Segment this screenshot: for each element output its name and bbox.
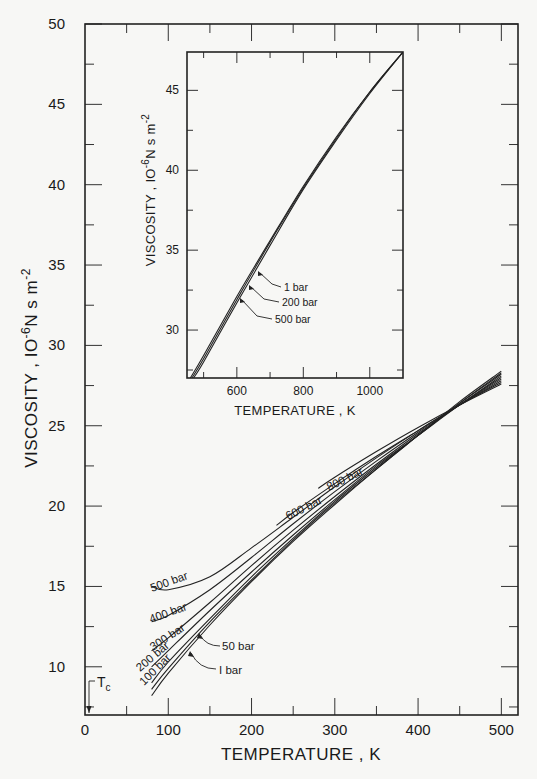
inset-y-title-mid: N s m <box>143 123 158 158</box>
pointer-1bar <box>191 653 216 669</box>
y-tick-label: 50 <box>48 15 65 32</box>
curve-200bar <box>152 376 502 667</box>
y-tick-label: 45 <box>48 95 65 112</box>
curve-50bar <box>152 373 502 690</box>
main-curve-labels: 500 bar 400 bar 300 bar 200 bar 100 bar … <box>134 465 366 688</box>
y-tick-label: 35 <box>48 256 65 273</box>
y-tick-label: 25 <box>48 417 65 434</box>
y-tick-label: 45 <box>166 83 180 97</box>
main-y-title-exp1: -6 <box>19 327 33 339</box>
x-tick-label: 500 <box>489 721 514 738</box>
inset-curve-label-500bar: 500 bar <box>275 313 311 325</box>
x-tick-label: 1000 <box>356 384 383 398</box>
pointer-1bar-arrow-icon <box>188 651 194 657</box>
inset-y-title-main: VISCOSITY , IO <box>143 168 158 266</box>
inset-y-title-exp2: -2 <box>140 114 151 124</box>
inset-x-axis-title: TEMPERATURE , K <box>234 403 355 418</box>
inset-curve-label-1bar: 1 bar <box>284 281 308 293</box>
y-tick-label: 15 <box>48 577 65 594</box>
main-y-title-exp2: -2 <box>19 268 33 280</box>
main-y-axis-title: VISCOSITY , IO-6N s m-2 <box>19 268 41 468</box>
tc-label: Tc <box>97 674 111 693</box>
inset-y-title-exp1: -6 <box>140 159 151 169</box>
x-tick-label: 200 <box>239 721 264 738</box>
curve-100bar <box>152 374 502 683</box>
y-tick-label: 40 <box>48 176 65 193</box>
main-x-axis-title: TEMPERATURE , K <box>221 745 381 764</box>
tc-marker: Tc <box>87 674 111 713</box>
main-y-title-mid: N s m <box>22 280 41 327</box>
y-tick-label: 35 <box>166 243 180 257</box>
x-tick-label: 0 <box>81 721 89 738</box>
x-tick-label: 400 <box>406 721 431 738</box>
y-tick-label: 40 <box>166 163 180 177</box>
main-curves <box>152 371 502 696</box>
pointer-50bar <box>200 635 220 646</box>
curve-label-500bar: 500 bar <box>149 569 190 594</box>
y-tick-label: 30 <box>48 336 65 353</box>
y-tick-label: 30 <box>166 323 180 337</box>
curve-label-1bar: I bar <box>219 664 242 676</box>
x-tick-label: 300 <box>322 721 347 738</box>
viscosity-chart: 0100200300400500101520253035404550 Tc 50… <box>0 0 537 779</box>
curve-1bar <box>152 371 502 696</box>
x-tick-label: 600 <box>227 384 247 398</box>
y-tick-label: 10 <box>48 658 65 675</box>
inset-background <box>187 52 403 378</box>
curve-label-400bar: 400 bar <box>148 600 189 625</box>
tc-arrow-icon <box>87 706 92 713</box>
y-tick-label: 20 <box>48 497 65 514</box>
curve-300bar <box>152 378 502 651</box>
main-y-title-main: VISCOSITY , IO <box>22 338 41 468</box>
x-tick-label: 100 <box>156 721 181 738</box>
inset-y-axis-title: VISCOSITY , IO-6N s m-2 <box>140 114 158 266</box>
x-tick-label: 800 <box>293 384 313 398</box>
curve-label-50bar: 50 bar <box>222 640 255 652</box>
inset-curve-label-200bar: 200 bar <box>282 296 318 308</box>
inset-plot: 600800100030354045 1 bar 200 bar 500 bar… <box>140 52 403 418</box>
tc-label-subscript: c <box>106 682 111 693</box>
